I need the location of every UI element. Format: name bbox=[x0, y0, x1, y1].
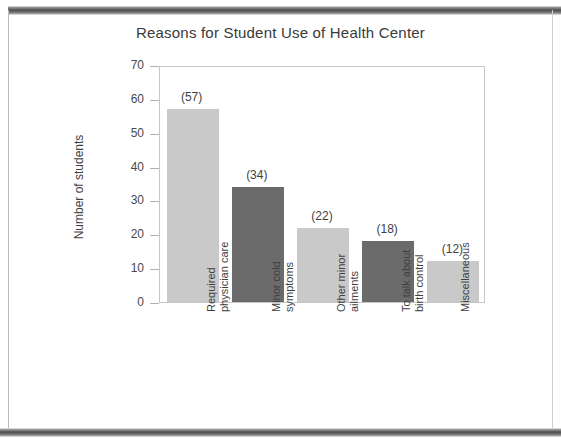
bar-value-label: (18) bbox=[347, 222, 427, 236]
x-axis-label-line: birth control bbox=[413, 250, 426, 312]
x-axis-label-line: ailments bbox=[348, 254, 361, 312]
chart-screenshot: Reasons for Student Use of Health Center… bbox=[0, 0, 561, 443]
bottom-rule-decoration bbox=[0, 428, 561, 437]
x-axis-label-line: Miscellaneous bbox=[459, 242, 472, 312]
y-axis-tick-value: 70 bbox=[108, 58, 144, 72]
y-axis-tick-value: 10 bbox=[108, 261, 144, 275]
x-axis-label: To talk aboutbirth control bbox=[400, 250, 426, 312]
y-axis-tick bbox=[150, 66, 159, 67]
x-axis-label-line: physician care bbox=[218, 242, 231, 312]
y-axis-tick-value: 0 bbox=[108, 295, 144, 309]
y-axis-tick bbox=[150, 303, 159, 304]
y-axis-tick bbox=[150, 235, 159, 236]
bar-value-label: (22) bbox=[282, 209, 362, 223]
y-axis-tick-value: 30 bbox=[108, 193, 144, 207]
y-axis-title: Number of students bbox=[72, 97, 86, 277]
y-axis-tick bbox=[150, 201, 159, 202]
x-axis-label: Other minorailments bbox=[335, 254, 361, 312]
x-axis-label-line: To talk about bbox=[400, 250, 413, 312]
y-axis-tick-value: 20 bbox=[108, 227, 144, 241]
frame-left-border bbox=[8, 10, 9, 430]
x-axis-label: Requiredphysician care bbox=[205, 242, 231, 312]
y-axis-tick bbox=[150, 269, 159, 270]
top-rule-decoration bbox=[8, 6, 561, 15]
x-axis-label-line: symptoms bbox=[283, 261, 296, 312]
y-axis-tick bbox=[150, 168, 159, 169]
chart-title: Reasons for Student Use of Health Center bbox=[0, 24, 561, 41]
y-axis-tick-value: 60 bbox=[108, 92, 144, 106]
bar-value-label: (57) bbox=[152, 90, 232, 104]
frame-right-border bbox=[552, 10, 553, 430]
x-axis-label-line: Minor cold bbox=[270, 261, 283, 312]
x-axis-label: Minor coldsymptoms bbox=[270, 261, 296, 312]
x-axis-label-line: Required bbox=[205, 242, 218, 312]
y-axis-tick-value: 40 bbox=[108, 160, 144, 174]
x-axis-label: Miscellaneous bbox=[459, 242, 472, 312]
x-axis-label-line: Other minor bbox=[335, 254, 348, 312]
y-axis-tick bbox=[150, 134, 159, 135]
y-axis-tick-value: 50 bbox=[108, 126, 144, 140]
bar-value-label: (34) bbox=[217, 168, 297, 182]
